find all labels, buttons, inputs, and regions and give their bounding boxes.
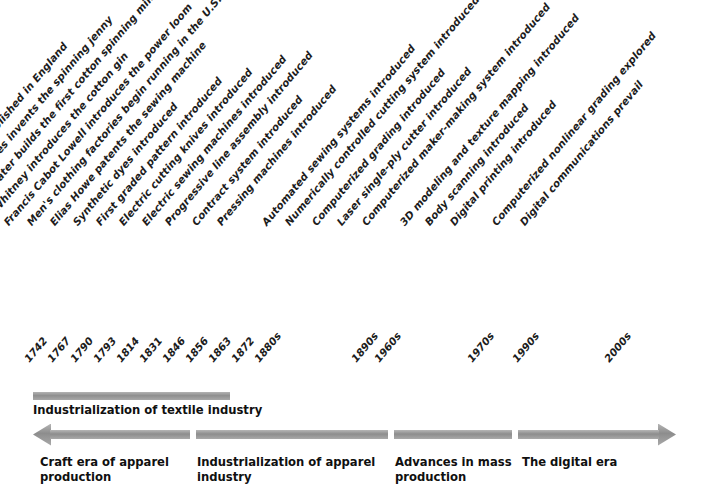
textile-industry-bar xyxy=(33,392,230,400)
era-caption-line: The digital era xyxy=(522,455,617,470)
era-arrowhead-right xyxy=(658,424,676,446)
era-caption-line: production xyxy=(40,470,169,485)
era-segment-bar xyxy=(196,430,388,439)
era-arrowhead-left xyxy=(33,424,51,446)
timeline-figure: Cotton factories established in EnglandJ… xyxy=(0,0,709,496)
era-arrow-band xyxy=(0,424,709,452)
era-caption-line: production xyxy=(395,470,512,485)
era-caption-line: Advances in mass xyxy=(395,455,512,470)
era-caption: Advances in massproduction xyxy=(395,455,512,485)
era-caption-line: Craft era of apparel xyxy=(40,455,169,470)
era-caption: Craft era of apparelproduction xyxy=(40,455,169,485)
era-segment-bar xyxy=(518,430,659,439)
era-caption: Industrialization of apparelindustry xyxy=(197,455,375,485)
textile-industry-caption: Industrialization of textile industry xyxy=(33,403,262,417)
era-segment-bar xyxy=(394,430,512,439)
era-segment-bar xyxy=(50,430,190,439)
era-caption-line: Industrialization of apparel xyxy=(197,455,375,470)
era-caption: The digital era xyxy=(522,455,617,470)
event-labels-layer: Cotton factories established in EnglandJ… xyxy=(0,0,709,340)
era-caption-line: industry xyxy=(197,470,375,485)
year-labels-layer: 1742176717901793181418311846185618631872… xyxy=(0,336,709,378)
